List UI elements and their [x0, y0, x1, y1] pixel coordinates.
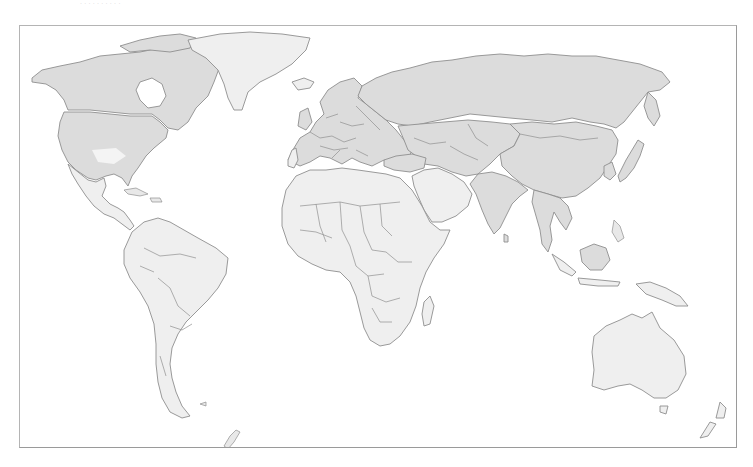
region-korea[interactable]	[604, 162, 616, 180]
region-portugal[interactable]	[288, 148, 298, 168]
region-arctic-islands[interactable]	[120, 34, 196, 52]
map-caption: · · · · · · · · · ·	[80, 0, 121, 6]
region-uk[interactable]	[298, 108, 312, 130]
region-cuba[interactable]	[124, 188, 148, 196]
region-madagascar[interactable]	[422, 296, 434, 326]
region-new-guinea[interactable]	[636, 282, 688, 306]
world-map-svg	[20, 26, 737, 448]
region-iceland[interactable]	[292, 78, 314, 90]
region-new-zealand[interactable]	[700, 402, 726, 438]
region-tasmania[interactable]	[660, 406, 668, 414]
region-borneo[interactable]	[580, 244, 610, 270]
region-kamchatka[interactable]	[644, 92, 660, 126]
region-falklands[interactable]	[200, 402, 206, 406]
region-se-asia[interactable]	[532, 190, 572, 252]
region-sri-lanka[interactable]	[504, 234, 508, 242]
region-philippines[interactable]	[612, 220, 624, 242]
region-australia[interactable]	[592, 312, 686, 398]
world-map[interactable]	[19, 25, 737, 448]
region-south-america[interactable]	[124, 218, 228, 418]
region-russia[interactable]	[358, 54, 670, 128]
region-antarctic-peninsula[interactable]	[224, 430, 240, 448]
region-japan[interactable]	[618, 140, 644, 182]
region-hispaniola[interactable]	[150, 198, 162, 202]
